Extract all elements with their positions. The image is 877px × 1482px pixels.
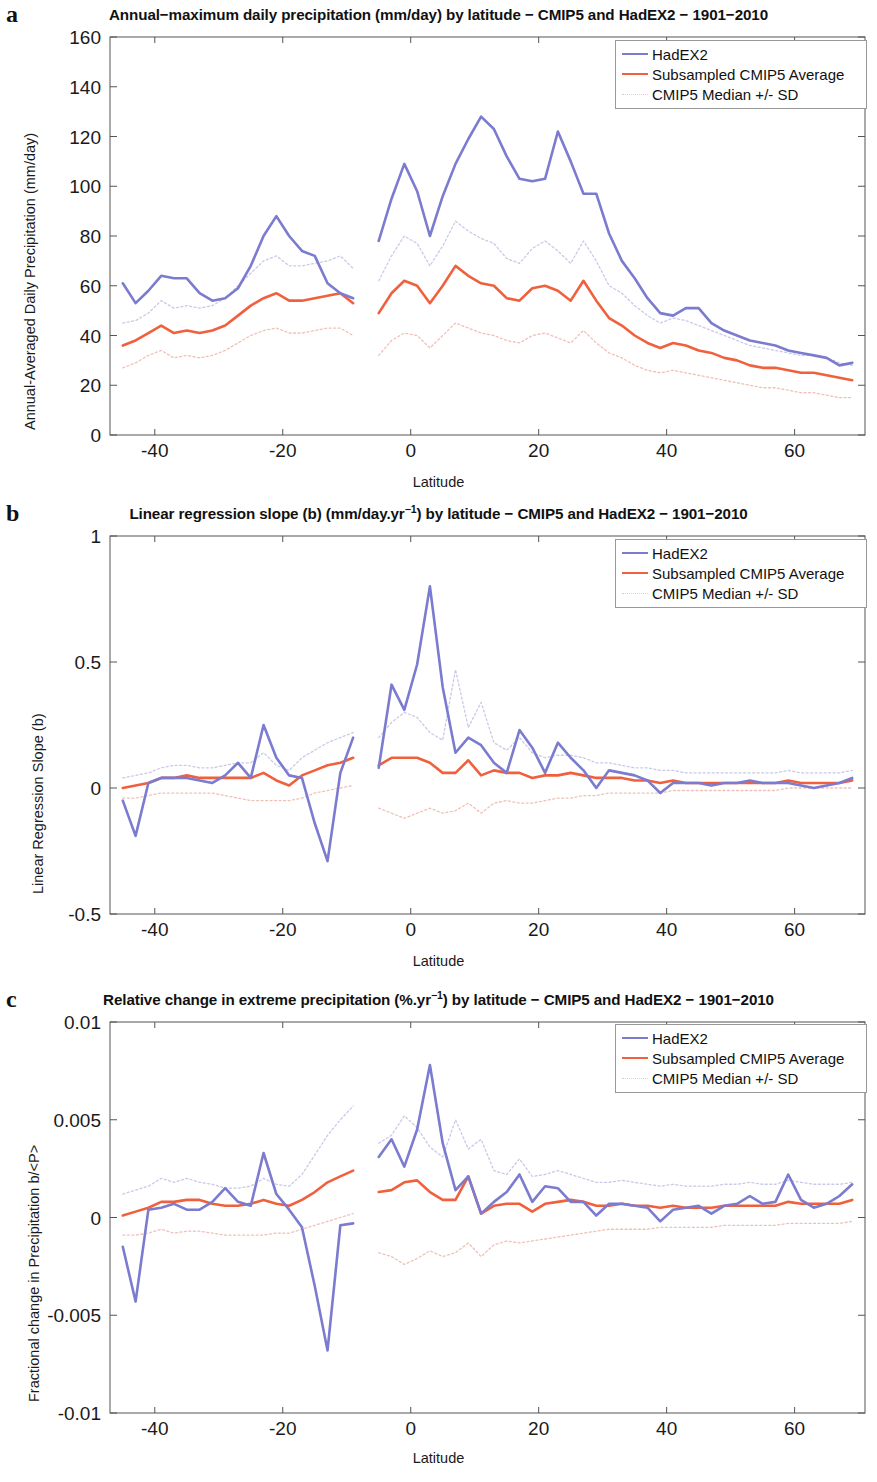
svg-text:80: 80: [80, 226, 101, 247]
svg-text:-20: -20: [269, 440, 296, 461]
svg-text:40: 40: [656, 919, 677, 940]
legend-item-cmip5-median-sd: CMIP5 Median +/- SD: [622, 84, 859, 104]
legend-swatch-cmip5-median-sd: [622, 1078, 648, 1079]
svg-text:20: 20: [80, 375, 101, 396]
svg-text:20: 20: [528, 1418, 549, 1439]
svg-text:40: 40: [656, 1418, 677, 1439]
svg-text:0: 0: [405, 919, 416, 940]
panel-a-ylabel: Annual-Averaged Daily Precipitation (mm/…: [22, 133, 38, 430]
legend-swatch-hadex2: [622, 552, 648, 554]
svg-text:0: 0: [90, 778, 101, 799]
panel-b-legend: HadEX2 Subsampled CMIP5 Average CMIP5 Me…: [615, 539, 867, 608]
legend-item-cmip5-average: Subsampled CMIP5 Average: [622, 64, 859, 84]
legend-item-cmip5-median-sd: CMIP5 Median +/- SD: [622, 583, 859, 603]
svg-text:60: 60: [80, 276, 101, 297]
svg-text:60: 60: [784, 1418, 805, 1439]
svg-text:0: 0: [90, 1208, 101, 1229]
svg-text:0: 0: [405, 1418, 416, 1439]
svg-text:40: 40: [656, 440, 677, 461]
panel-a-title-pre: Annual−maximum daily precipitation (mm/d…: [109, 6, 768, 23]
svg-text:140: 140: [69, 77, 101, 98]
svg-text:20: 20: [528, 919, 549, 940]
panel-c-ylabel: Fractional change in Precipitation b/<P>: [26, 1145, 42, 1402]
panel-b: b Linear regression slope (b) (mm/day.yr…: [0, 494, 877, 977]
legend-label-cmip5-average: Subsampled CMIP5 Average: [652, 66, 844, 83]
panel-c-title-pre: Relative change in extreme precipitation…: [103, 991, 431, 1008]
panel-b-ylabel: Linear Regression Slope (b): [30, 713, 46, 894]
svg-text:-40: -40: [141, 440, 168, 461]
legend-label-hadex2: HadEX2: [652, 1030, 708, 1047]
svg-text:60: 60: [784, 919, 805, 940]
svg-text:-40: -40: [141, 1418, 168, 1439]
panel-c-xlabel: Latitude: [0, 1450, 877, 1466]
panel-c-title: Relative change in extreme precipitation…: [0, 991, 877, 1008]
svg-text:40: 40: [80, 326, 101, 347]
legend-label-cmip5-average: Subsampled CMIP5 Average: [652, 565, 844, 582]
svg-text:-0.01: -0.01: [58, 1403, 101, 1424]
legend-item-cmip5-average: Subsampled CMIP5 Average: [622, 1048, 859, 1068]
svg-text:-20: -20: [269, 919, 296, 940]
panel-b-title-sup: −1: [405, 503, 417, 515]
svg-text:100: 100: [69, 176, 101, 197]
legend-item-cmip5-median-sd: CMIP5 Median +/- SD: [622, 1068, 859, 1088]
legend-label-cmip5-median-sd: CMIP5 Median +/- SD: [652, 585, 798, 602]
legend-swatch-hadex2: [622, 53, 648, 55]
svg-text:0.5: 0.5: [75, 652, 101, 673]
panel-c-title-sup: −1: [431, 989, 443, 1001]
legend-swatch-hadex2: [622, 1037, 648, 1039]
legend-item-hadex2: HadEX2: [622, 44, 859, 64]
legend-swatch-cmip5-median-sd: [622, 593, 648, 594]
svg-text:-40: -40: [141, 919, 168, 940]
panel-b-xlabel: Latitude: [0, 953, 877, 969]
svg-text:160: 160: [69, 27, 101, 48]
svg-text:120: 120: [69, 127, 101, 148]
svg-text:0: 0: [405, 440, 416, 461]
panel-a-title: Annual−maximum daily precipitation (mm/d…: [0, 6, 877, 23]
panel-c: c Relative change in extreme precipitati…: [0, 977, 877, 1482]
legend-label-hadex2: HadEX2: [652, 545, 708, 562]
legend-swatch-cmip5-average: [622, 572, 648, 574]
panel-a: a Annual−maximum daily precipitation (mm…: [0, 0, 877, 494]
svg-text:-20: -20: [269, 1418, 296, 1439]
panel-c-legend: HadEX2 Subsampled CMIP5 Average CMIP5 Me…: [615, 1024, 867, 1093]
panel-c-title-post: ) by latitude − CMIP5 and HadEX2 − 1901−…: [443, 991, 774, 1008]
panel-a-xlabel: Latitude: [0, 474, 877, 490]
legend-item-hadex2: HadEX2: [622, 1028, 859, 1048]
legend-label-cmip5-median-sd: CMIP5 Median +/- SD: [652, 1070, 798, 1087]
svg-text:0.01: 0.01: [64, 1012, 101, 1033]
svg-text:-0.005: -0.005: [47, 1305, 101, 1326]
svg-text:20: 20: [528, 440, 549, 461]
panel-b-title: Linear regression slope (b) (mm/day.yr−1…: [0, 505, 877, 522]
legend-swatch-cmip5-average: [622, 73, 648, 75]
legend-item-hadex2: HadEX2: [622, 543, 859, 563]
panel-a-legend: HadEX2 Subsampled CMIP5 Average CMIP5 Me…: [615, 40, 867, 109]
legend-label-cmip5-average: Subsampled CMIP5 Average: [652, 1050, 844, 1067]
svg-text:-0.5: -0.5: [68, 904, 101, 925]
legend-swatch-cmip5-median-sd: [622, 94, 648, 95]
legend-swatch-cmip5-average: [622, 1057, 648, 1059]
svg-text:0: 0: [90, 425, 101, 446]
svg-text:0.005: 0.005: [53, 1110, 101, 1131]
legend-label-hadex2: HadEX2: [652, 46, 708, 63]
legend-label-cmip5-median-sd: CMIP5 Median +/- SD: [652, 86, 798, 103]
panel-b-title-post: ) by latitude − CMIP5 and HadEX2 − 1901−…: [416, 505, 747, 522]
panel-b-title-pre: Linear regression slope (b) (mm/day.yr: [129, 505, 404, 522]
svg-text:1: 1: [90, 526, 101, 547]
legend-item-cmip5-average: Subsampled CMIP5 Average: [622, 563, 859, 583]
svg-text:60: 60: [784, 440, 805, 461]
